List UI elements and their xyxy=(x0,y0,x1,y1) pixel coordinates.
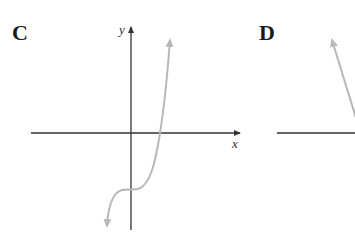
panel-c-axes xyxy=(31,27,240,230)
graph-canvas xyxy=(0,0,355,235)
panel-d-curve xyxy=(332,40,355,118)
